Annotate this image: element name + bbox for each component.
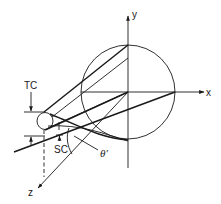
cylinder-mid-line: [52, 58, 128, 117]
origin-to-cylinder: [48, 92, 128, 128]
theta-label: θ′: [100, 147, 108, 159]
tc-label: TC: [24, 80, 37, 91]
x-axis-label: x: [206, 87, 211, 98]
cylinder-top-line: [44, 45, 128, 112]
sc-label: SC: [54, 144, 68, 155]
long-line: [14, 92, 175, 152]
z-axis-label: z: [28, 187, 33, 198]
theta-leader: [74, 136, 98, 150]
y-axis-label: y: [132, 9, 137, 20]
tangent-cylinder-diagram: y x z TC SC θ′: [0, 0, 221, 204]
